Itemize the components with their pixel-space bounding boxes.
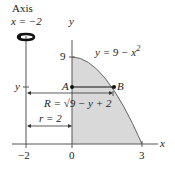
label-B: B — [117, 80, 124, 92]
point-B — [112, 85, 116, 89]
y-axis-label: y — [68, 15, 74, 27]
label-A: A — [61, 80, 69, 92]
point-A — [70, 85, 74, 89]
axis-title: Axis — [12, 2, 33, 14]
outer-radius-label: R = √9 − y + 2 — [43, 97, 112, 109]
tick-0: 0 — [69, 149, 75, 161]
washer-diagram: Axis x = −2 y x 9 y −2 0 3 A B y = 9 − x… — [0, 0, 175, 170]
tick-y: y — [14, 80, 20, 92]
tick-9: 9 — [60, 50, 66, 62]
x-axis-label: x — [159, 137, 165, 149]
inner-radius-label: r = 2 — [39, 112, 62, 124]
axis-equation: x = −2 — [10, 15, 42, 27]
curve-label: y = 9 − x2 — [94, 44, 140, 58]
tick-3: 3 — [139, 149, 145, 161]
tick-neg2: −2 — [18, 149, 30, 161]
